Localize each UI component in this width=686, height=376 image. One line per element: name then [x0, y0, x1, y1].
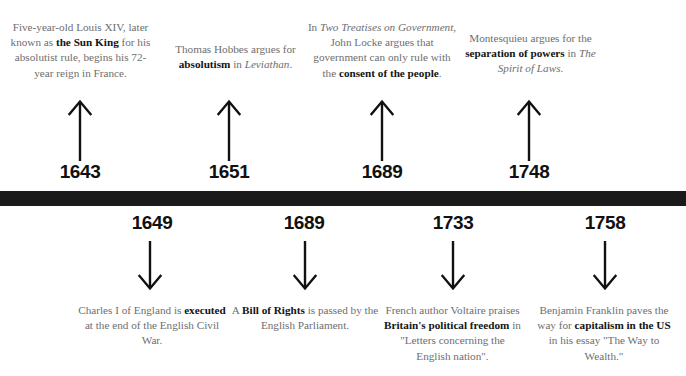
event-text-below-3: Benjamin Franklin paves the way for capi…: [533, 303, 675, 364]
arrow-down-icon-below-1: [289, 241, 321, 291]
arrow-down-icon-below-3: [589, 241, 621, 291]
timeline-infographic: Five-year-old Louis XIV, later known as …: [0, 0, 686, 376]
arrow-up-icon-above-1: [213, 99, 245, 161]
event-text-above-3: Montesquieu argues for the separation of…: [459, 31, 602, 77]
year-label-below-0: 1649: [112, 212, 192, 234]
year-label-above-0: 1643: [40, 161, 120, 183]
year-label-above-2: 1689: [342, 161, 422, 183]
year-label-below-1: 1689: [264, 212, 344, 234]
year-label-above-1: 1651: [189, 161, 269, 183]
arrow-up-icon-above-2: [366, 99, 398, 161]
event-text-below-0: Charles I of England is executed at the …: [78, 303, 226, 349]
year-label-below-3: 1758: [565, 212, 645, 234]
event-text-above-2: In Two Treatises on Government, John Loc…: [307, 20, 457, 81]
arrow-down-icon-below-0: [134, 241, 166, 291]
event-text-below-1: A Bill of Rights is passed by the Englis…: [231, 303, 379, 333]
year-label-above-3: 1748: [489, 161, 569, 183]
event-text-above-1: Thomas Hobbes argues for absolutism in L…: [163, 42, 308, 72]
arrow-down-icon-below-2: [437, 241, 469, 291]
arrow-up-icon-above-3: [513, 99, 545, 161]
year-label-below-2: 1733: [413, 212, 493, 234]
event-text-above-0: Five-year-old Louis XIV, later known as …: [8, 20, 153, 81]
timeline-bar: [0, 191, 686, 206]
event-text-below-2: French author Voltaire praises Britain's…: [383, 303, 522, 364]
arrow-up-icon-above-0: [64, 99, 96, 161]
